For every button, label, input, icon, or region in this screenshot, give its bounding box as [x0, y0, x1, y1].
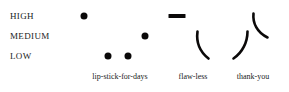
data-point-dot	[142, 33, 149, 40]
chart-container: HIGH MEDIUM LOW lip-stick-for-days flaw-…	[0, 0, 289, 92]
data-point-curve	[197, 32, 208, 59]
x-axis-label-flaw-less: flaw-less	[179, 72, 208, 81]
data-point-dot	[81, 13, 88, 20]
data-point-curve	[234, 32, 248, 59]
x-axis-label-thank-you: thank-you	[237, 72, 269, 81]
y-axis-label-high: HIGH	[10, 11, 34, 21]
data-point-dot	[105, 53, 112, 60]
y-axis-label-low: LOW	[10, 51, 32, 61]
data-point-dash	[169, 14, 186, 18]
data-point-curve	[253, 14, 267, 38]
data-point-dot	[125, 53, 132, 60]
x-axis-label-lip-stick-for-days: lip-stick-for-days	[92, 72, 147, 81]
y-axis-label-medium: MEDIUM	[10, 31, 50, 41]
